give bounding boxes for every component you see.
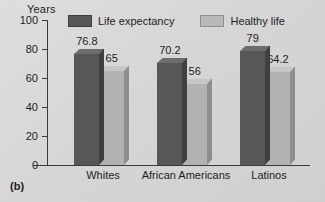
category-label-african-americans: African Americans bbox=[142, 169, 231, 181]
bar-side-face bbox=[182, 57, 187, 165]
bar-life-expectancy-african-americans[interactable]: 70.2 bbox=[157, 63, 182, 165]
y-axis-line bbox=[47, 20, 48, 165]
bar-value-label: 64.2 bbox=[267, 53, 288, 65]
panel-label: (b) bbox=[10, 180, 24, 192]
y-tick-mark bbox=[42, 49, 47, 50]
y-tick-label: 40 bbox=[26, 101, 38, 113]
bar-side-face bbox=[124, 65, 129, 165]
bar-group-latinos: 64.2 79 Latinos bbox=[235, 20, 297, 165]
legend-swatch-icon-healthy-life bbox=[200, 15, 224, 27]
bar-value-label: 65 bbox=[106, 52, 118, 64]
y-tick-mark bbox=[42, 136, 47, 137]
y-tick-label: 20 bbox=[26, 130, 38, 142]
legend-swatch-icon-life-expectancy bbox=[68, 15, 92, 27]
legend-label-life-expectancy: Life expectancy bbox=[98, 15, 174, 27]
legend-label-healthy-life: Healthy life bbox=[230, 15, 284, 27]
bar-group-african-americans: 56 70.2 African Americans bbox=[152, 20, 214, 165]
plot-area: 100 80 60 40 20 0 65 bbox=[47, 20, 310, 165]
bar-value-label: 76.8 bbox=[76, 35, 97, 47]
y-tick-mark bbox=[42, 165, 47, 166]
category-label-latinos: Latinos bbox=[251, 169, 286, 181]
bar-group-whites: 65 76.8 Whites bbox=[69, 20, 131, 165]
y-tick-mark bbox=[42, 107, 47, 108]
bar-side-face bbox=[207, 78, 212, 165]
y-tick-label: 80 bbox=[26, 43, 38, 55]
bar-value-label: 70.2 bbox=[159, 44, 180, 56]
bar-side-face bbox=[290, 66, 295, 165]
y-tick-mark bbox=[42, 20, 47, 21]
legend-item-life-expectancy: Life expectancy bbox=[68, 15, 174, 27]
bar-side-face bbox=[99, 48, 104, 165]
y-tick-label: 60 bbox=[26, 72, 38, 84]
chart-legend: Life expectancy Healthy life bbox=[68, 15, 285, 27]
y-tick-label: 0 bbox=[32, 159, 38, 171]
figure-panel: Years Life expectancy Healthy life 100 8… bbox=[0, 0, 325, 202]
bar-value-label: 56 bbox=[189, 65, 201, 77]
y-tick-label: 100 bbox=[20, 14, 38, 26]
bar-value-label: 79 bbox=[247, 32, 259, 44]
legend-item-healthy-life: Healthy life bbox=[200, 15, 284, 27]
bar-front-face bbox=[157, 63, 182, 165]
bar-front-face bbox=[74, 54, 99, 165]
category-label-whites: Whites bbox=[86, 169, 120, 181]
bar-front-face bbox=[240, 51, 265, 165]
bar-life-expectancy-latinos[interactable]: 79 bbox=[240, 51, 265, 165]
bar-side-face bbox=[265, 45, 270, 165]
y-tick-mark bbox=[42, 78, 47, 79]
bar-life-expectancy-whites[interactable]: 76.8 bbox=[74, 54, 99, 165]
x-axis-line bbox=[33, 165, 310, 166]
